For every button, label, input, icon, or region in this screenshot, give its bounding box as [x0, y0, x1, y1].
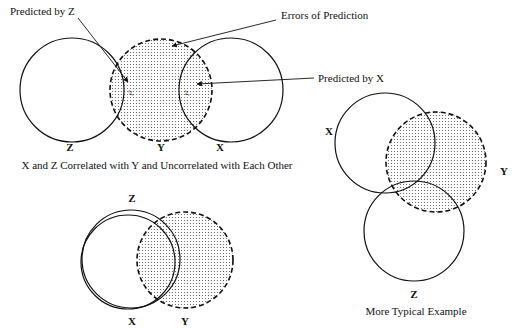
y-label: Y: [157, 141, 165, 153]
right-diagram: X Y Z More Typical Example: [325, 93, 508, 317]
y-label: Y: [181, 315, 189, 327]
predicted-by-z-arrow: [78, 18, 128, 82]
right-diagram-caption: More Typical Example: [365, 305, 466, 317]
z-label: Z: [410, 288, 417, 300]
predicted-by-z-label: Predicted by Z: [10, 5, 75, 17]
x-label: X: [325, 125, 333, 137]
x-label: X: [128, 315, 136, 327]
x-label: X: [216, 141, 224, 153]
y-circle-shaded: [110, 39, 212, 141]
y-label: Y: [500, 165, 508, 177]
y-circle-shaded: [137, 212, 233, 308]
predicted-by-x-label: Predicted by X: [318, 72, 384, 84]
errors-of-prediction-label: Errors of Prediction: [281, 9, 369, 21]
venn-diagram-figure: r² r² Predicted by Z Errors of Predictio…: [0, 0, 513, 331]
top-diagram: r² r² Predicted by Z Errors of Predictio…: [10, 5, 384, 171]
y-circle-shaded: [386, 112, 486, 212]
errors-of-prediction-arrow: [172, 20, 276, 46]
bottom-left-diagram: Z X Y: [81, 192, 233, 327]
z-label: Z: [66, 141, 73, 153]
top-diagram-caption: X and Z Correlated with Y and Uncorrelat…: [21, 159, 292, 171]
z-label: Z: [128, 192, 135, 204]
z-circle: [20, 38, 124, 142]
predicted-by-x-arrow: [197, 78, 314, 84]
